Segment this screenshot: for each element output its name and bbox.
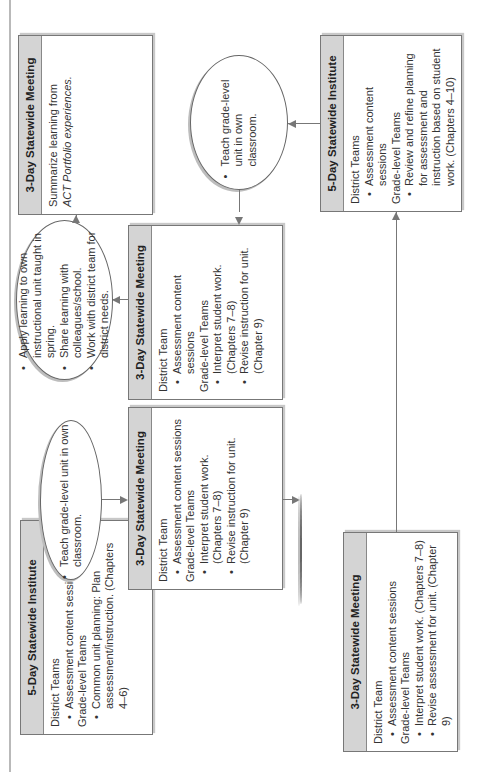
bullet-item: Revise instruction for unit. (Chapter 9) [225, 415, 252, 574]
group-label: District Team [157, 233, 171, 392]
bullet-item: Teach grade-level unit in own classroom. [219, 67, 260, 179]
group-label: Grade-level Teams [399, 540, 413, 744]
bullet-item: Interpret student work. (Chapters 7–8) [413, 540, 427, 736]
group-label: District Teams [349, 43, 363, 204]
meeting-e-title: 3-Day Statewide Meeting [19, 36, 42, 214]
group-label: Grade-level Teams [390, 43, 404, 204]
institute-g-box: 5-Day Statewide Institute District Teams… [320, 35, 462, 212]
bullet-item: Assessment content sessions [171, 233, 198, 384]
group-label: District Team [372, 540, 386, 744]
connector [239, 190, 240, 212]
arrow-icon [120, 496, 128, 504]
bullet-item: Work with district team for district nee… [85, 230, 112, 370]
bullet-item: Assessment content sessions [363, 43, 390, 196]
oval-teach-f: Teach grade-level unit in own classroom. [190, 55, 288, 190]
group-label: Grade-level Teams [184, 415, 198, 582]
bullet-item: Share learning with colleagues/school. [58, 230, 85, 370]
bullet-item: Review and refine planning for assessmen… [403, 43, 457, 196]
bullet-item: Revise instruction for unit. (Chapter 9) [238, 233, 265, 384]
group-label: District Team [157, 415, 171, 582]
summary-line-1: Summarize learning from [47, 43, 61, 207]
bullet-item: Teach grade-level unit in own classroom. [58, 421, 85, 579]
arrow-icon [112, 296, 120, 304]
arrow-icon [392, 212, 400, 220]
group-label: Grade-level Teams [198, 233, 212, 392]
arrow-icon [235, 217, 243, 225]
oval-share-b [300, 494, 302, 604]
bullet-item: Assessment content sessions [386, 540, 400, 736]
oval-apply: Apply learning to own instructional unit… [16, 220, 113, 380]
meeting-e-box: 3-Day Statewide Meeting Summarize learni… [18, 35, 153, 215]
meeting-b-title: 3-Day Statewide Meeting [129, 408, 152, 589]
bullet-item: Interpret student work. (Chapters 7–8) [198, 415, 225, 574]
meeting-b-box: 3-Day Statewide Meeting District Team As… [128, 407, 283, 590]
meeting-d-title: 3-Day Statewide Meeting [129, 226, 152, 399]
bullet-item: Interpret student work. (Chapters 7–8) [211, 233, 238, 384]
bullet-item: Apply learning to own instructional unit… [17, 230, 58, 370]
summary-line-2: ACT Portfolio experiences. [61, 43, 75, 207]
institute-a-title: 5-Day Statewide Institute [21, 521, 44, 734]
connector [396, 212, 397, 532]
bullet-item: Revise assessment for unit. (Chapter 9) [426, 540, 453, 736]
meeting-c-title: 3-Day Statewide Meeting [344, 533, 367, 751]
meeting-c-box: 3-Day Statewide Meeting District Team As… [343, 532, 458, 752]
bullet-item: Common unit planning: Plan assessment/in… [90, 528, 131, 719]
meeting-d-box: 3-Day Statewide Meeting District Team As… [128, 225, 283, 400]
institute-g-title: 5-Day Statewide Institute [321, 36, 344, 211]
arrow-icon [72, 215, 80, 223]
arrow-icon [292, 496, 300, 504]
bullet-item: Assessment content sessions [171, 415, 185, 574]
oval-teach-a: Teach grade-level unit in own classroom. [40, 420, 102, 580]
rotated-diagram: 5-Day Statewide Institute District Teams… [0, 0, 483, 772]
arrow-icon [288, 120, 296, 128]
